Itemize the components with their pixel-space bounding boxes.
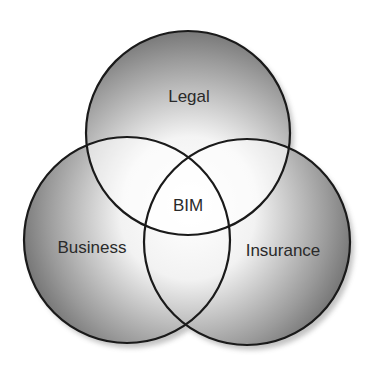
insurance-label: Insurance [246, 241, 321, 260]
bim-intersection-label: BIM [173, 196, 203, 215]
business-label: Business [58, 238, 127, 257]
venn-diagram: Legal Business Insurance BIM [0, 0, 377, 374]
legal-label: Legal [168, 87, 210, 106]
